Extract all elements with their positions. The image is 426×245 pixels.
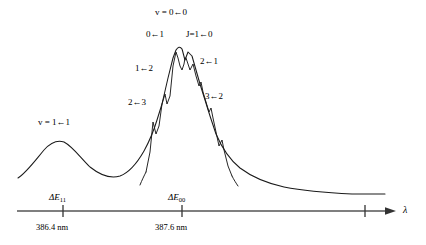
band-label-upper: v = 0←0 bbox=[155, 8, 187, 17]
delta-e-00-subscript: 00 bbox=[179, 196, 186, 203]
fine-structure-right-branch bbox=[186, 58, 232, 176]
axis-value-386: 386.4 nm bbox=[36, 222, 68, 232]
axis-value-387: 387.6 nm bbox=[155, 222, 187, 232]
rot-label-j-2-from-3: 2←3 bbox=[128, 98, 146, 107]
spectrum-figure: v = 0←0 v = 1←1 0←1 J=1←0 1←2 2←1 2←3 3←… bbox=[0, 0, 426, 245]
delta-e-11-subscript: 11 bbox=[60, 196, 66, 203]
wavelength-axis-arrowhead bbox=[385, 207, 396, 215]
rot-label-j-1-from-0: J=1←0 bbox=[186, 30, 213, 39]
axis-delta-label-dE11: ΔE11 bbox=[49, 192, 66, 203]
rot-label-j-0-from-1: 0←1 bbox=[146, 30, 164, 39]
rot-label-j-2-from-1: 2←1 bbox=[200, 57, 218, 66]
rot-label-j-1-from-2: 1←2 bbox=[135, 64, 153, 73]
band-envelope-curve bbox=[18, 47, 385, 194]
axis-variable-lambda: λ bbox=[403, 204, 407, 215]
delta-e-00-symbol: ΔE bbox=[168, 192, 179, 202]
fine-structure-left-tail bbox=[140, 172, 146, 185]
axis-delta-label-dE00: ΔE00 bbox=[168, 192, 185, 203]
rot-label-j-3-from-2: 3←2 bbox=[205, 92, 223, 101]
fine-structure-right-tail bbox=[232, 176, 238, 186]
band-label-lower: v = 1←1 bbox=[38, 118, 70, 127]
delta-e-11-symbol: ΔE bbox=[49, 192, 60, 202]
